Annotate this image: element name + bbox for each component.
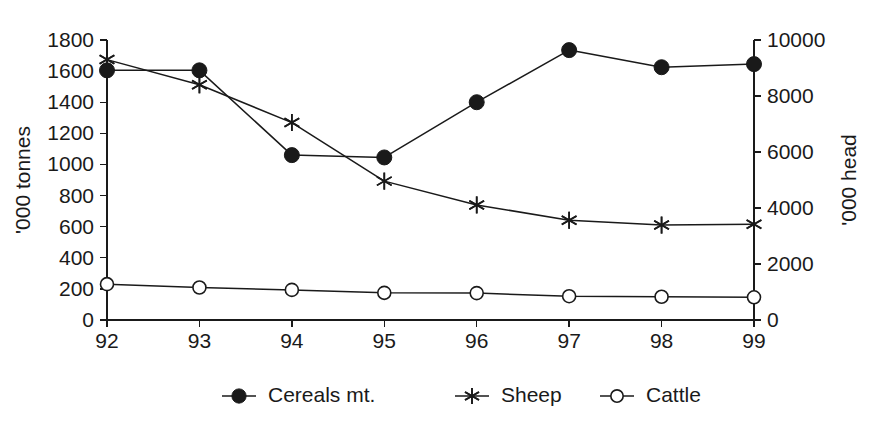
left-tick-label: 1200 xyxy=(47,121,94,144)
x-tick-label: 96 xyxy=(465,329,488,352)
marker-open-circle xyxy=(470,287,483,300)
x-tick-label: 95 xyxy=(373,329,396,352)
marker-open-circle xyxy=(748,291,761,304)
left-tick-label: 800 xyxy=(59,184,94,207)
left-tick-label: 200 xyxy=(59,277,94,300)
left-tick-label: 1800 xyxy=(47,28,94,51)
marker-filled-circle xyxy=(747,57,762,72)
marker-open-circle xyxy=(285,283,298,296)
x-tick-label: 94 xyxy=(280,329,304,352)
legend-item-label: Cattle xyxy=(646,383,701,406)
right-tick-label: 10000 xyxy=(767,28,825,51)
left-axis-title: '000 tonnes xyxy=(11,126,34,234)
right-tick-label: 4000 xyxy=(767,196,814,219)
marker-filled-circle xyxy=(377,150,392,165)
chart-figure: 020040060080010001200140016001800 020004… xyxy=(0,0,887,422)
marker-open-circle xyxy=(563,290,576,303)
marker-open-circle xyxy=(611,390,623,402)
right-tick-label: 8000 xyxy=(767,84,814,107)
marker-open-circle xyxy=(378,286,391,299)
left-tick-label: 1600 xyxy=(47,59,94,82)
marker-filled-circle xyxy=(562,43,577,58)
right-axis-title: '000 head xyxy=(837,134,860,226)
marker-open-circle xyxy=(101,278,114,291)
marker-filled-circle xyxy=(284,148,299,163)
right-tick-label: 2000 xyxy=(767,252,814,275)
left-tick-label: 400 xyxy=(59,246,94,269)
marker-filled-circle xyxy=(232,389,246,403)
x-tick-label: 99 xyxy=(742,329,765,352)
legend-item-label: Sheep xyxy=(501,383,562,406)
marker-filled-circle xyxy=(654,60,669,75)
marker-open-circle xyxy=(655,290,668,303)
line-chart-canvas: 020040060080010001200140016001800 020004… xyxy=(0,0,887,422)
left-tick-label: 0 xyxy=(82,308,94,331)
left-tick-label: 1400 xyxy=(47,90,94,113)
marker-open-circle xyxy=(193,281,206,294)
x-tick-label: 93 xyxy=(188,329,211,352)
marker-filled-circle xyxy=(469,95,484,110)
legend-item-label: Cereals mt. xyxy=(268,383,375,406)
left-tick-label: 1000 xyxy=(47,152,94,175)
left-tick-label: 600 xyxy=(59,215,94,238)
right-tick-label: 0 xyxy=(767,308,779,331)
marker-filled-circle xyxy=(192,63,207,78)
right-tick-label: 6000 xyxy=(767,140,814,163)
x-tick-label: 92 xyxy=(95,329,118,352)
x-tick-label: 97 xyxy=(557,329,580,352)
x-tick-label: 98 xyxy=(650,329,673,352)
